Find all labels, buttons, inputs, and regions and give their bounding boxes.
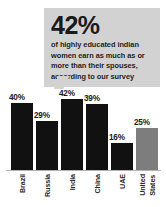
- bar-india[interactable]: [61, 99, 83, 170]
- xlabel-slot-united-states: United States: [136, 172, 158, 207]
- bar-value-united-states: 25%: [134, 118, 160, 127]
- bar-russia[interactable]: [36, 121, 58, 170]
- bar-value-russia: 29%: [34, 111, 60, 120]
- xlabel-slot-china: China: [86, 172, 108, 207]
- chart-plot-area: 40% 29% 42% 39% 16% 25%: [11, 86, 159, 170]
- xlabel-india: India: [61, 174, 83, 190]
- xlabel-india-line-1: India: [68, 174, 77, 190]
- bar-slot-russia: 29%: [36, 86, 58, 170]
- callout-headline-stat: 42%: [51, 13, 154, 38]
- bar-united-states[interactable]: [136, 128, 158, 170]
- xlabel-uae: UAE: [111, 174, 133, 189]
- bar-uae[interactable]: [111, 143, 133, 170]
- bar-slot-united-states: 25%: [136, 86, 158, 170]
- xlabel-slot-uae: UAE: [111, 172, 133, 207]
- infographic-figure: 42% of highly educated indian women earn…: [0, 0, 166, 207]
- xlabel-china-line-1: China: [93, 174, 102, 193]
- bar-slot-brazil: 40%: [11, 86, 33, 170]
- xlabel-brazil-line-1: Brazil: [18, 174, 27, 193]
- xlabel-slot-russia: Russia: [36, 172, 58, 207]
- bar-value-brazil: 40%: [9, 93, 35, 102]
- bar-chart: 40% 29% 42% 39% 16% 25%: [0, 86, 166, 207]
- xlabel-russia: Russia: [36, 174, 58, 197]
- xlabel-uae-line-1: UAE: [118, 174, 127, 189]
- bar-value-uae: 16%: [109, 133, 135, 142]
- chart-baseline-axis: [6, 170, 161, 171]
- bar-brazil[interactable]: [11, 103, 33, 170]
- xlabel-china: China: [86, 174, 108, 193]
- bar-value-india: 42%: [59, 89, 85, 98]
- bar-slot-china: 39%: [86, 86, 108, 170]
- bar-china[interactable]: [86, 104, 108, 170]
- chart-category-axis: Brazil Russia India China UAE: [11, 172, 159, 207]
- xlabel-slot-india: India: [61, 172, 83, 207]
- xlabel-united-states-line-1: United: [138, 174, 147, 196]
- xlabel-united-states: United States: [136, 174, 158, 196]
- bar-value-china: 39%: [84, 94, 110, 103]
- bar-slot-uae: 16%: [111, 86, 133, 170]
- bar-slot-india: 42%: [61, 86, 83, 170]
- xlabel-brazil: Brazil: [11, 174, 33, 193]
- xlabel-united-states-line-2: States: [148, 174, 157, 196]
- xlabel-slot-brazil: Brazil: [11, 172, 33, 207]
- xlabel-russia-line-1: Russia: [43, 174, 52, 197]
